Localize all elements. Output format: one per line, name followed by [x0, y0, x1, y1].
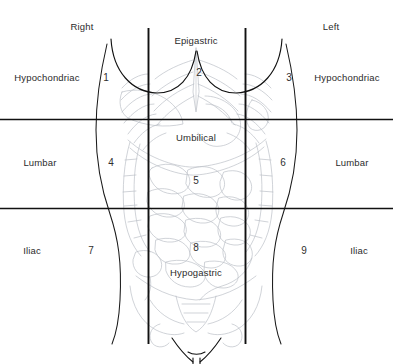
abdominal-regions-figure: Right Left Epigastric Hypochondriac Hypo… [0, 0, 393, 364]
region-number-5: 5 [193, 176, 199, 186]
header-left: Left [323, 22, 339, 32]
region-label-left-iliac: Iliac [350, 246, 368, 256]
region-label-right-hypochondriac: Hypochondriac [14, 73, 79, 83]
region-number-1: 1 [103, 73, 109, 83]
region-number-8: 8 [193, 243, 199, 253]
header-right: Right [71, 22, 94, 32]
region-label-right-iliac: Iliac [23, 246, 41, 256]
region-number-2: 2 [196, 68, 202, 78]
region-label-left-hypochondriac: Hypochondriac [314, 73, 379, 83]
pubic-arch [172, 338, 221, 364]
region-label-umbilical: Umbilical [176, 133, 216, 143]
viscera-underdrawing [120, 48, 273, 347]
region-label-left-lumbar: Lumbar [335, 158, 368, 168]
region-number-7: 7 [88, 246, 94, 256]
region-number-4: 4 [108, 158, 114, 168]
region-number-9: 9 [301, 246, 307, 256]
region-label-right-lumbar: Lumbar [23, 158, 56, 168]
region-number-6: 6 [280, 158, 286, 168]
region-label-hypogastric: Hypogastric [170, 268, 222, 278]
region-number-3: 3 [286, 73, 292, 83]
costal-margin [111, 39, 282, 93]
torso-outline [96, 44, 297, 344]
region-label-epigastric: Epigastric [174, 36, 217, 46]
